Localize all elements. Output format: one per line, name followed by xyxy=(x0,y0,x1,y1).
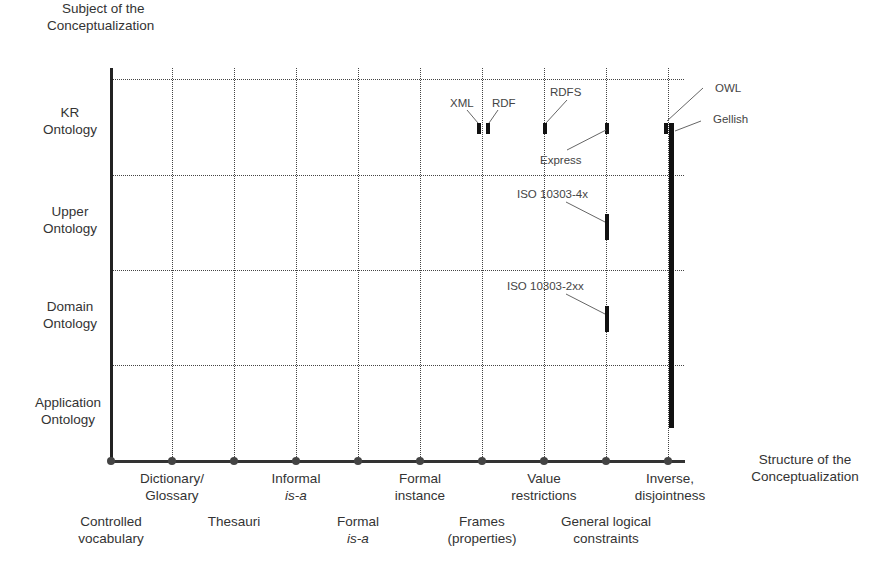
label-owl: OWL xyxy=(715,82,741,95)
label-gellish: Gellish xyxy=(713,113,748,126)
leader-lines xyxy=(0,0,879,585)
label-xml: XML xyxy=(450,97,474,110)
label-iso-10303-4x: ISO 10303-4x xyxy=(517,188,588,201)
label-express: Express xyxy=(540,154,582,167)
label-rdfs: RDFS xyxy=(550,86,581,99)
label-iso-10303-2xx: ISO 10303-2xx xyxy=(507,280,584,293)
label-rdf: RDF xyxy=(492,97,516,110)
